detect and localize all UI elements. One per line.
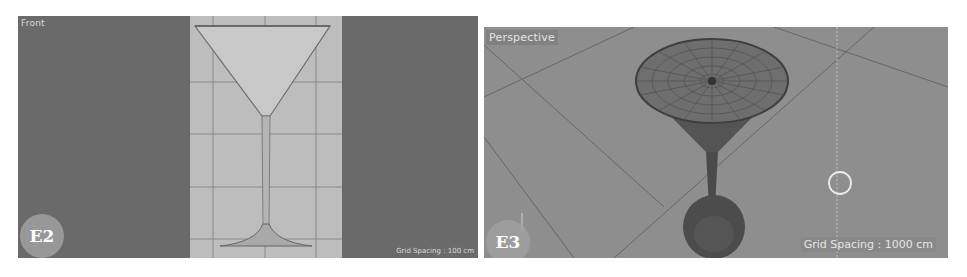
step-badge: E3 (486, 220, 530, 258)
step-badge: E2 (20, 214, 64, 258)
perspective-viewport[interactable]: Perspective Grid Spacing : 1000 cm E3 (484, 27, 948, 258)
viewport-label[interactable]: Front (21, 18, 45, 28)
gizmo-circle-icon (829, 172, 851, 194)
grid-spacing-label: Grid Spacing : 100 cm (396, 247, 474, 255)
perspective-scene (484, 27, 948, 258)
front-viewport[interactable]: Front Grid Spacing : 100 cm E2 (18, 16, 478, 258)
grid-spacing-label: Grid Spacing : 1000 cm (801, 237, 936, 252)
viewport-label[interactable]: Perspective (486, 30, 558, 45)
reference-image-plane (190, 16, 342, 258)
martini-glass-reference-icon (190, 16, 342, 258)
